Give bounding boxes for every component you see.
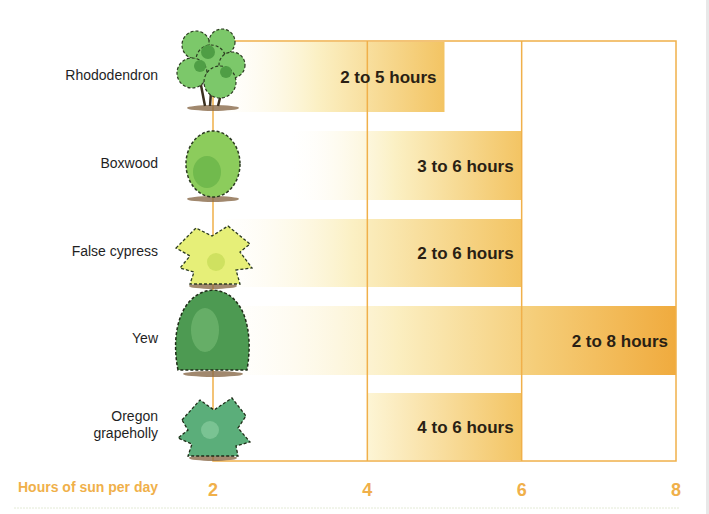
x-tick-label: 8 [671, 480, 681, 500]
oregon-grapeholly-icon [178, 398, 250, 461]
row-label-line: Rhododendron [8, 67, 158, 84]
x-tick-label: 4 [362, 480, 372, 500]
row-label: Rhododendron [8, 67, 158, 84]
row-label-line: Oregon [8, 408, 158, 425]
bar-value-label: 2 to 6 hours [417, 244, 513, 263]
bar-value-label: 3 to 6 hours [417, 157, 513, 176]
yew-icon [176, 290, 250, 377]
row-label: Boxwood [8, 155, 158, 172]
bar-value-label: 2 to 8 hours [572, 332, 668, 351]
row-label-line: Boxwood [8, 155, 158, 172]
bar-value-label: 4 to 6 hours [417, 418, 513, 437]
x-tick-label: 2 [208, 480, 218, 500]
x-axis-title: Hours of sun per day [18, 479, 158, 495]
boxwood-icon [186, 131, 240, 202]
row-label: False cypress [8, 243, 158, 260]
x-tick-label: 6 [517, 480, 527, 500]
row-label: Yew [8, 330, 158, 347]
row-label-line: False cypress [8, 243, 158, 260]
row-label-line: grapeholly [8, 425, 158, 442]
row-label-line: Yew [8, 330, 158, 347]
ticks-layer: 2468 [208, 480, 681, 500]
bar-value-label: 2 to 5 hours [340, 68, 436, 87]
row-label: Oregongrapeholly [8, 408, 158, 442]
